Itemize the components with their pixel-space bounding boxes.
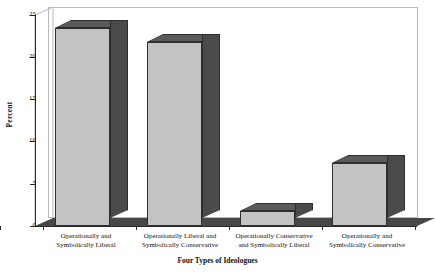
- bar-2: [240, 0, 295, 226]
- x-axis-line: [35, 226, 417, 227]
- x-tick-4: [415, 226, 416, 230]
- bar-1: [147, 0, 202, 226]
- x-category-label-0-line-0: Operationally and: [36, 232, 136, 241]
- y-tick-label-5: 5: [16, 180, 36, 187]
- x-tick-2: [0, 226, 1, 230]
- y-tick-label-0: 0: [16, 222, 36, 229]
- bar-3-front: [332, 163, 387, 226]
- bar-1-front: [147, 42, 202, 226]
- bar-3-side: [387, 155, 405, 218]
- x-category-label-3-line-1: Symbolically Conservative: [311, 241, 423, 250]
- bar-2-front: [240, 211, 295, 226]
- bar-1-side: [202, 34, 220, 218]
- y-axis-title: Percent: [5, 90, 14, 140]
- x-tick-3: [322, 226, 323, 230]
- bar-0-side: [110, 20, 128, 218]
- bar-0-front: [55, 28, 110, 226]
- bar-3: [332, 0, 387, 226]
- x-tick-2b: [229, 226, 230, 230]
- y-tick-label-25: 25: [16, 11, 36, 18]
- x-category-label-3-line-0: Operationally and: [311, 232, 423, 241]
- x-tick-1: [136, 226, 137, 230]
- y-tick-label-15: 15: [16, 95, 36, 102]
- x-category-label-0-line-1: Symbolically Liberal: [36, 241, 136, 250]
- y-tick-label-20: 20: [16, 53, 36, 60]
- y-tick-label-10: 10: [16, 137, 36, 144]
- x-tick-0: [43, 226, 44, 230]
- x-category-label-3: Operationally and Symbolically Conservat…: [311, 232, 423, 249]
- y-axis-line: [35, 15, 36, 227]
- bar-0: [55, 0, 110, 226]
- x-category-label-0: Operationally and Symbolically Liberal: [36, 232, 136, 249]
- x-axis-title: Four Types of Ideologues: [0, 256, 435, 265]
- bar-chart: 0 5 10 15 20 25 Percent Operational: [0, 0, 435, 274]
